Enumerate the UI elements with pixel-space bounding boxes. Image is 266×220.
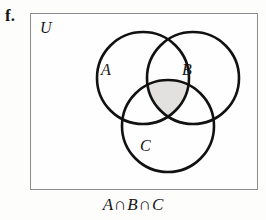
venn-diagram-graphic: A B C: [30, 13, 258, 190]
circle-b: [147, 32, 239, 124]
caption-set-a: A: [103, 195, 113, 214]
circle-a: [97, 32, 189, 124]
figure-caption: A∩B∩C: [0, 192, 266, 218]
caption-intersection-icon-2: ∩: [138, 195, 152, 214]
set-label-c: C: [140, 137, 151, 154]
part-label: f.: [5, 6, 15, 26]
venn-diagram-figure: f. U A B C A∩B∩C: [0, 0, 266, 220]
set-label-a: A: [100, 61, 111, 78]
caption-set-b: B: [127, 195, 137, 214]
caption-set-c: C: [152, 195, 163, 214]
set-label-b: B: [182, 61, 192, 78]
caption-intersection-icon-1: ∩: [113, 195, 127, 214]
